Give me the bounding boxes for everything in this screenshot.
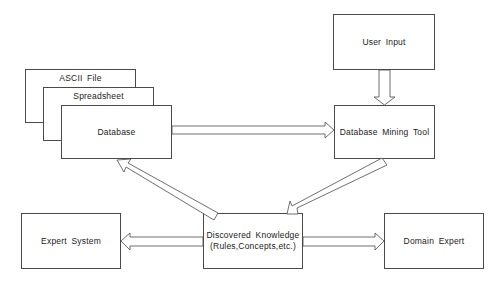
arrow-knowledge-to-domain-expert bbox=[303, 233, 384, 250]
arrow-mining-tool-to-knowledge bbox=[287, 158, 387, 214]
arrow-user-input-to-mining-tool bbox=[374, 70, 395, 105]
arrow-knowledge-to-database bbox=[117, 159, 218, 220]
arrow-database-to-mining-tool bbox=[172, 122, 334, 138]
arrows-layer bbox=[0, 0, 499, 287]
arrow-knowledge-to-expert-system bbox=[121, 233, 203, 250]
